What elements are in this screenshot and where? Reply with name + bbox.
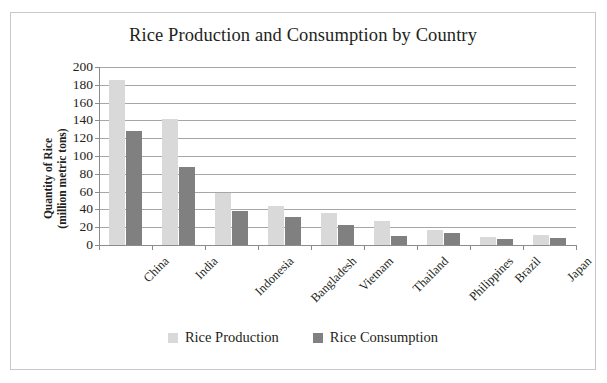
bar-group bbox=[523, 67, 576, 245]
bar-group bbox=[311, 67, 364, 245]
x-axis-label: Vietnam bbox=[356, 254, 397, 295]
legend-label: Rice Production bbox=[185, 329, 279, 346]
bar-consumption[interactable] bbox=[126, 131, 142, 245]
x-tick-mark bbox=[152, 245, 153, 250]
bar-consumption[interactable] bbox=[285, 217, 301, 245]
x-axis-label: Philippines bbox=[466, 254, 516, 304]
x-tick-mark bbox=[205, 245, 206, 250]
bar-consumption[interactable] bbox=[391, 236, 407, 245]
chart-title: Rice Production and Consumption by Count… bbox=[11, 25, 595, 46]
bar-consumption[interactable] bbox=[179, 167, 195, 245]
bar-consumption[interactable] bbox=[550, 238, 566, 245]
x-axis-label: Brazil bbox=[512, 254, 544, 286]
bar-production[interactable] bbox=[374, 221, 390, 245]
legend-item-production[interactable]: Rice Production bbox=[168, 329, 279, 346]
bar-consumption[interactable] bbox=[497, 239, 513, 245]
y-tick-label: 140 bbox=[73, 112, 93, 128]
y-tick-label: 20 bbox=[80, 219, 94, 235]
bar-production[interactable] bbox=[268, 206, 284, 245]
plot-area: 020406080100120140160180200 ChinaIndiaIn… bbox=[99, 67, 576, 245]
bar-production[interactable] bbox=[533, 235, 549, 245]
y-axis-title-line1: Quantity of Rice bbox=[42, 138, 54, 219]
x-tick-mark bbox=[470, 245, 471, 250]
x-axis-label: Indonesia bbox=[252, 254, 297, 299]
bar-group bbox=[258, 67, 311, 245]
x-axis-label: Japan bbox=[564, 254, 595, 285]
x-tick-mark bbox=[523, 245, 524, 250]
bar-production[interactable] bbox=[427, 230, 443, 245]
bar-group bbox=[470, 67, 523, 245]
x-tick-mark bbox=[311, 245, 312, 250]
legend-item-consumption[interactable]: Rice Consumption bbox=[313, 329, 438, 346]
bar-group bbox=[417, 67, 470, 245]
y-tick-label: 60 bbox=[80, 184, 94, 200]
y-axis-title-line2: (million metric tons) bbox=[55, 99, 69, 259]
chart-legend: Rice ProductionRice Consumption bbox=[11, 329, 595, 346]
legend-label: Rice Consumption bbox=[330, 329, 438, 346]
bar-production[interactable] bbox=[321, 213, 337, 245]
bar-group bbox=[152, 67, 205, 245]
x-tick-mark bbox=[258, 245, 259, 250]
x-tick-mark bbox=[364, 245, 365, 250]
y-tick-label: 200 bbox=[73, 59, 93, 75]
bar-consumption[interactable] bbox=[338, 225, 354, 245]
bar-consumption[interactable] bbox=[232, 211, 248, 245]
x-axis-line bbox=[99, 245, 576, 246]
bar-production[interactable] bbox=[480, 237, 496, 245]
x-axis-label: China bbox=[141, 254, 173, 286]
y-tick-label: 120 bbox=[73, 130, 93, 146]
x-axis-label: Thailand bbox=[410, 254, 452, 296]
bar-group bbox=[205, 67, 258, 245]
x-axis-label: Bangladesh bbox=[308, 254, 360, 306]
legend-swatch-icon bbox=[313, 333, 323, 343]
legend-swatch-icon bbox=[168, 333, 178, 343]
bar-production[interactable] bbox=[162, 119, 178, 245]
y-tick-label: 0 bbox=[86, 237, 93, 253]
bar-consumption[interactable] bbox=[444, 233, 460, 245]
bar-production[interactable] bbox=[109, 80, 125, 245]
y-tick-label: 40 bbox=[80, 201, 94, 217]
x-axis-label: India bbox=[192, 254, 221, 283]
bar-group bbox=[99, 67, 152, 245]
x-tick-mark bbox=[417, 245, 418, 250]
y-tick-label: 160 bbox=[73, 95, 93, 111]
x-tick-mark bbox=[576, 245, 577, 250]
bar-group bbox=[364, 67, 417, 245]
y-tick-label: 180 bbox=[73, 77, 93, 93]
y-tick-label: 100 bbox=[73, 148, 93, 164]
y-tick-label: 80 bbox=[80, 166, 94, 182]
y-axis-title: Quantity of Rice (million metric tons) bbox=[42, 99, 69, 259]
chart-container: Rice Production and Consumption by Count… bbox=[10, 12, 596, 370]
bar-production[interactable] bbox=[215, 193, 231, 245]
x-tick-mark bbox=[99, 245, 100, 250]
